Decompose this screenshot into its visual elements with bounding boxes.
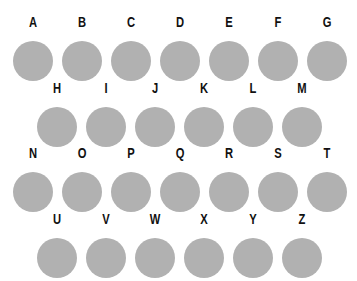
letter-label: Q [164, 146, 196, 160]
letter-label: K [188, 81, 220, 95]
letter-circle[interactable] [209, 172, 249, 212]
letter-key-t[interactable]: T [307, 146, 347, 216]
letter-circle[interactable] [13, 41, 53, 81]
letter-circle[interactable] [135, 238, 175, 278]
letter-key-x[interactable]: X [184, 212, 224, 281]
letter-circle[interactable] [282, 238, 322, 278]
letter-label: L [237, 81, 269, 95]
letter-label: S [262, 146, 294, 160]
letter-circle[interactable] [37, 238, 77, 278]
letter-circle[interactable] [62, 172, 102, 212]
letter-circle[interactable] [86, 107, 126, 147]
letter-circle[interactable] [233, 238, 273, 278]
letter-key-b[interactable]: B [62, 15, 102, 85]
letter-circle[interactable] [37, 107, 77, 147]
letter-key-v[interactable]: V [86, 212, 126, 281]
letter-label: A [17, 15, 49, 29]
letter-circle[interactable] [184, 107, 224, 147]
letter-circle[interactable] [62, 41, 102, 81]
letter-label: M [286, 81, 318, 95]
letter-label: P [115, 146, 147, 160]
letter-circle[interactable] [184, 238, 224, 278]
letter-label: T [311, 146, 343, 160]
letter-label: D [164, 15, 196, 29]
letter-circle[interactable] [258, 41, 298, 81]
letter-label: Y [237, 212, 269, 226]
letter-label: C [115, 15, 147, 29]
letter-key-w[interactable]: W [135, 212, 175, 281]
letter-key-u[interactable]: U [37, 212, 77, 281]
letter-key-m[interactable]: M [282, 81, 322, 151]
letter-label: Z [286, 212, 318, 226]
letter-label: N [17, 146, 49, 160]
letter-label: U [41, 212, 73, 226]
letter-circle[interactable] [307, 41, 347, 81]
letter-key-p[interactable]: P [111, 146, 151, 216]
letter-key-j[interactable]: J [135, 81, 175, 151]
letter-circle[interactable] [111, 172, 151, 212]
letter-label: B [66, 15, 98, 29]
letter-label: H [41, 81, 73, 95]
letter-circle[interactable] [282, 107, 322, 147]
letter-key-e[interactable]: E [209, 15, 249, 85]
letter-label: W [139, 212, 171, 226]
letter-key-f[interactable]: F [258, 15, 298, 85]
letter-circle[interactable] [111, 41, 151, 81]
letter-circle[interactable] [233, 107, 273, 147]
letter-key-z[interactable]: Z [282, 212, 322, 281]
letter-circle[interactable] [135, 107, 175, 147]
letter-key-n[interactable]: N [13, 146, 53, 216]
letter-key-d[interactable]: D [160, 15, 200, 85]
letter-label: O [66, 146, 98, 160]
letter-circle[interactable] [160, 172, 200, 212]
letter-circle[interactable] [209, 41, 249, 81]
letter-label: I [90, 81, 122, 95]
letter-label: J [139, 81, 171, 95]
letter-key-c[interactable]: C [111, 15, 151, 85]
letter-label: V [90, 212, 122, 226]
letter-label: F [262, 15, 294, 29]
letter-key-i[interactable]: I [86, 81, 126, 151]
letter-key-h[interactable]: H [37, 81, 77, 151]
letter-key-q[interactable]: Q [160, 146, 200, 216]
letter-circle[interactable] [86, 238, 126, 278]
letter-key-k[interactable]: K [184, 81, 224, 151]
letter-key-o[interactable]: O [62, 146, 102, 216]
letter-label: X [188, 212, 220, 226]
letter-key-l[interactable]: L [233, 81, 273, 151]
letter-key-a[interactable]: A [13, 15, 53, 85]
letter-key-s[interactable]: S [258, 146, 298, 216]
letter-key-y[interactable]: Y [233, 212, 273, 281]
letter-circle[interactable] [258, 172, 298, 212]
letter-key-r[interactable]: R [209, 146, 249, 216]
letter-key-g[interactable]: G [307, 15, 347, 85]
letter-circle[interactable] [160, 41, 200, 81]
letter-circle[interactable] [307, 172, 347, 212]
letter-circle[interactable] [13, 172, 53, 212]
letter-label: E [213, 15, 245, 29]
letter-label: R [213, 146, 245, 160]
letter-label: G [311, 15, 343, 29]
